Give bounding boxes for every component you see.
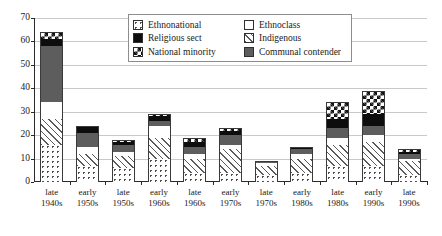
bar-segment bbox=[326, 145, 349, 166]
x-axis-tick-mark bbox=[248, 181, 249, 185]
bar-stack bbox=[255, 161, 278, 182]
x-axis-tick-label-line: 1980s bbox=[320, 198, 356, 209]
gray-swatch-icon bbox=[244, 47, 254, 57]
x-axis-tick-label: early1980s bbox=[284, 187, 320, 209]
x-axis-tick-label-line: early bbox=[213, 187, 249, 198]
legend-label: Communal contender bbox=[259, 47, 341, 57]
x-axis-tick-label: early1990s bbox=[356, 187, 392, 209]
x-axis-tick-label: late1990s bbox=[391, 187, 427, 209]
y-axis-tick-label: 40 bbox=[8, 83, 30, 92]
bar-segment bbox=[40, 119, 63, 145]
bar-segment bbox=[362, 135, 385, 142]
x-axis-tick-label-line: late bbox=[248, 187, 284, 198]
y-axis-tick-label: 0 bbox=[8, 177, 30, 186]
bar-segment bbox=[290, 159, 313, 173]
x-axis-tick-mark bbox=[177, 181, 178, 185]
legend-label: Ethnoclass bbox=[259, 20, 300, 30]
bar-segment bbox=[40, 145, 63, 182]
legend-label: Indigenous bbox=[259, 33, 301, 43]
x-axis-tick-label-line: 1970s bbox=[213, 198, 249, 209]
bar-stack bbox=[290, 147, 313, 182]
bar-segment bbox=[76, 126, 99, 133]
bar-segment bbox=[362, 126, 385, 135]
x-axis-tick-mark bbox=[391, 181, 392, 185]
x-axis-tick-label: late1940s bbox=[34, 187, 70, 209]
bar-segment bbox=[76, 154, 99, 166]
bar-segment bbox=[326, 128, 349, 137]
bar-stack bbox=[148, 114, 171, 182]
bar-segment bbox=[362, 166, 385, 182]
bar-segment bbox=[76, 147, 99, 154]
y-axis-tick-label: 60 bbox=[8, 36, 30, 45]
x-axis-tick-label-line: late bbox=[320, 187, 356, 198]
bar-segment bbox=[183, 159, 206, 173]
bar-segment bbox=[40, 39, 63, 46]
x-axis-tick-label-line: early bbox=[356, 187, 392, 198]
chart-legend: Ethnonational Religious sect National mi… bbox=[128, 14, 352, 62]
bar-segment bbox=[112, 156, 135, 168]
bar-stack bbox=[326, 102, 349, 182]
x-axis-tick-label: early1960s bbox=[141, 187, 177, 209]
legend-label: Ethnonational bbox=[148, 20, 201, 30]
x-axis-tick-label-line: early bbox=[141, 187, 177, 198]
legend-item: Ethnoclass bbox=[244, 18, 347, 31]
bar-segment bbox=[326, 166, 349, 182]
x-axis-tick-mark bbox=[427, 181, 428, 185]
x-axis-tick-label-line: 1990s bbox=[356, 198, 392, 209]
x-axis-tick-label-line: 1960s bbox=[141, 198, 177, 209]
bar-segment bbox=[112, 168, 135, 182]
bar-segment bbox=[148, 138, 171, 159]
bar-segment bbox=[148, 159, 171, 182]
x-axis-tick-label-line: 1970s bbox=[248, 198, 284, 209]
bar-segment bbox=[219, 135, 242, 144]
x-axis-tick-mark bbox=[105, 181, 106, 185]
chart-figure: 010203040506070 late1940searly1950slate1… bbox=[0, 0, 442, 236]
x-axis-tick-mark bbox=[320, 181, 321, 185]
bar-segment bbox=[40, 102, 63, 118]
legend-item: Indigenous bbox=[244, 32, 347, 45]
x-axis-tick-label-line: 1960s bbox=[177, 198, 213, 209]
y-axis-tick-label: 10 bbox=[8, 154, 30, 163]
white-swatch-icon bbox=[244, 20, 254, 30]
bar-stack bbox=[183, 138, 206, 182]
bar-segment bbox=[219, 173, 242, 182]
bar-segment bbox=[40, 32, 63, 39]
bar-stack bbox=[219, 128, 242, 182]
x-axis-tick-label: early1950s bbox=[70, 187, 106, 209]
x-axis-tick-label: early1970s bbox=[213, 187, 249, 209]
bar-segment bbox=[76, 166, 99, 182]
x-axis-tick-label: late1970s bbox=[248, 187, 284, 209]
bar-segment bbox=[326, 119, 349, 128]
legend-item: Religious sect bbox=[133, 32, 244, 45]
x-axis-tick-mark bbox=[141, 181, 142, 185]
legend-item: National minority bbox=[133, 45, 244, 58]
bar-segment bbox=[112, 145, 135, 152]
legend-column-right: Ethnoclass Indigenous Communal contender bbox=[244, 18, 347, 58]
legend-label: National minority bbox=[148, 47, 216, 57]
x-axis-tick-label: late1950s bbox=[105, 187, 141, 209]
x-axis-tick-mark bbox=[213, 181, 214, 185]
bar-segment bbox=[183, 147, 206, 154]
bar-segment bbox=[362, 142, 385, 165]
x-axis-tick-label-line: early bbox=[284, 187, 320, 198]
x-axis-tick-label-line: 1990s bbox=[391, 198, 427, 209]
bar-segment bbox=[326, 102, 349, 118]
bar-segment bbox=[362, 114, 385, 126]
x-axis-tick-label-line: 1950s bbox=[70, 198, 106, 209]
legend-item: Communal contender bbox=[244, 45, 347, 58]
checker-swatch-icon bbox=[133, 47, 143, 57]
hatch-swatch-icon bbox=[244, 33, 254, 43]
x-axis-tick-label-line: late bbox=[177, 187, 213, 198]
bar-stack bbox=[398, 149, 421, 182]
bar-stack bbox=[40, 32, 63, 182]
legend-label: Religious sect bbox=[148, 33, 202, 43]
x-axis-tick-mark bbox=[284, 181, 285, 185]
y-axis-tick-label: 50 bbox=[8, 60, 30, 69]
y-axis-tick-mark bbox=[31, 182, 34, 183]
bar-segment bbox=[255, 175, 278, 182]
y-axis-tick-label: 70 bbox=[8, 13, 30, 22]
legend-column-left: Ethnonational Religious sect National mi… bbox=[133, 18, 244, 58]
x-axis-tick-mark bbox=[70, 181, 71, 185]
bar-stack bbox=[76, 126, 99, 182]
y-axis-tick-label: 30 bbox=[8, 107, 30, 116]
